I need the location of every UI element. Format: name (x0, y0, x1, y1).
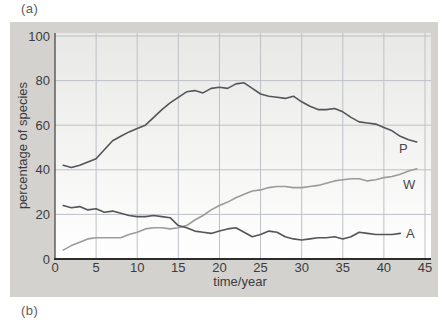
x-tick-label: 40 (377, 260, 391, 275)
x-tick-label: 0 (51, 260, 58, 275)
x-tick-label: 20 (212, 260, 226, 275)
x-tick-label: 35 (336, 260, 350, 275)
x-axis-title: time/year (140, 274, 340, 289)
series-label-w: W (403, 177, 415, 192)
plot-area (55, 33, 431, 259)
x-tick-label: 15 (171, 260, 185, 275)
x-tick-label: 45 (418, 260, 432, 275)
x-tick-label: 5 (92, 260, 99, 275)
series-label-a: A (406, 226, 415, 241)
chart-panel: 051015202530354045020406080100 percentag… (10, 22, 438, 297)
y-tick-label: 0 (43, 252, 50, 267)
line-chart: 051015202530354045020406080100 (10, 22, 438, 297)
y-axis-title: percentage of species (15, 81, 30, 211)
x-tick-label: 10 (130, 260, 144, 275)
y-tick-label: 100 (28, 29, 50, 44)
y-tick-label: 40 (36, 162, 50, 177)
y-tick-label: 80 (36, 73, 50, 88)
y-tick-label: 20 (36, 207, 50, 222)
figure-label-a: (a) (21, 1, 38, 16)
x-tick-label: 25 (253, 260, 267, 275)
x-tick-label: 30 (294, 260, 308, 275)
y-tick-label: 60 (36, 118, 50, 133)
series-label-p: P (399, 141, 408, 156)
figure-label-b: (b) (21, 303, 38, 318)
